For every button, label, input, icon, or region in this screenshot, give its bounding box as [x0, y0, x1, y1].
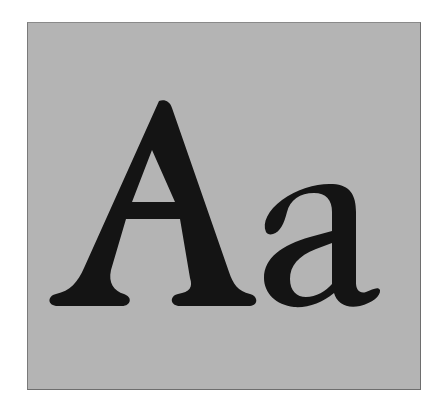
glyph-lowercase-a	[264, 184, 380, 307]
glyph-uppercase-a	[49, 100, 256, 306]
canvas: Aa	[0, 0, 443, 416]
glyph-layer	[0, 0, 443, 416]
